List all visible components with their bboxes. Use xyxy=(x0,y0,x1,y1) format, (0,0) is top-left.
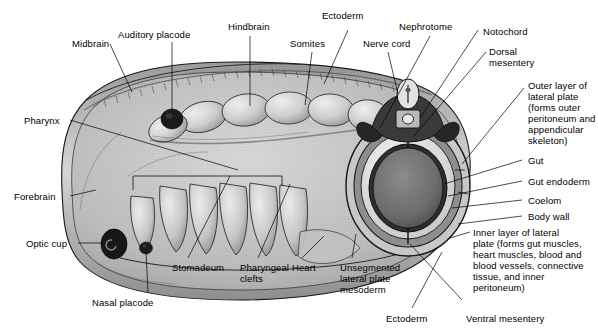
label-coelom: Coelom xyxy=(528,195,561,206)
label-ectoderm-top: Ectoderm xyxy=(322,10,363,21)
label-nerve-cord: Nerve cord xyxy=(363,38,410,49)
label-hindbrain: Hindbrain xyxy=(228,21,270,32)
label-nasal-placode: Nasal placode xyxy=(92,297,154,308)
label-somites: Somites xyxy=(290,38,325,49)
embryo-diagram-figure: Midbrain Auditory placode Hindbrain Somi… xyxy=(0,0,598,333)
label-midbrain: Midbrain xyxy=(72,38,109,49)
label-outer-layer-lateral-plate: Outer layer of lateral plate (forms oute… xyxy=(528,80,595,146)
label-gut: Gut xyxy=(528,155,544,166)
label-stomadeum: Stomadeum xyxy=(172,262,224,273)
label-dorsal-mesentery: Dorsal mesentery xyxy=(489,46,534,68)
label-pharyngeal-clefts: Pharyngeal clefts xyxy=(240,262,289,284)
label-notochord: Notochord xyxy=(483,26,528,37)
label-pharynx: Pharynx xyxy=(24,115,60,126)
label-ventral-mesentery: Ventral mesentery xyxy=(466,313,544,324)
label-optic-cup: Optic cup xyxy=(26,238,67,249)
label-heart: Heart xyxy=(292,262,316,273)
label-body-wall: Body wall xyxy=(528,211,570,222)
label-gut-endoderm: Gut endoderm xyxy=(528,176,590,187)
label-inner-layer-lateral-plate: Inner layer of lateral plate (forms gut … xyxy=(473,227,584,293)
label-ectoderm-bottom: Ectoderm xyxy=(386,313,427,324)
label-nephrotome: Nephrotome xyxy=(399,21,452,32)
label-forebrain: Forebrain xyxy=(14,191,56,202)
label-auditory-placode: Auditory placode xyxy=(118,29,190,40)
label-unsegmented-lateral-plate-mesoderm: Unsegmented lateral plate mesoderm xyxy=(340,262,400,295)
